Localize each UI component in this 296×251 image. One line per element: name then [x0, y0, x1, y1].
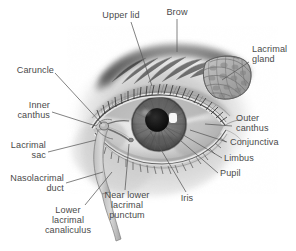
- label-iris: Iris: [174, 193, 200, 203]
- label-near-lower-lacrimal-punctum: Near lower lacrimal punctum: [96, 190, 158, 221]
- label-caruncle: Caruncle: [2, 65, 54, 75]
- label-pupil: Pupil: [220, 168, 260, 178]
- label-lacrimal-sac: Lacrimal sac: [0, 140, 46, 160]
- label-inner-canthus: Inner canthus: [0, 100, 50, 120]
- label-lacrimal-gland: Lacrimal gland: [252, 44, 296, 64]
- label-conjunctiva: Conjunctiva: [230, 137, 294, 147]
- label-nasolacrimal-duct: Nasolacrimal duct: [0, 173, 64, 193]
- eye-anatomy-figure: Upper lid Brow Lacrimal gland Caruncle I…: [0, 0, 296, 251]
- label-outer-canthus: Outer canthus: [236, 113, 284, 133]
- label-upper-lid: Upper lid: [92, 10, 150, 20]
- label-lower-lacrimal-canaliculus: Lower lacrimal canaliculus: [32, 205, 104, 236]
- label-brow: Brow: [155, 7, 199, 17]
- artist-signature: a.z.w.: [231, 86, 244, 91]
- label-limbus: Limbus: [224, 153, 270, 163]
